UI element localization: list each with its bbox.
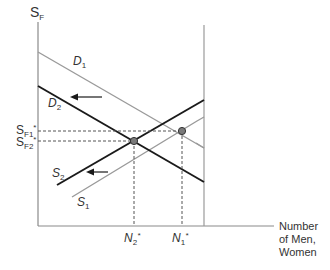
demand-curve-d1-kink <box>196 143 204 148</box>
y-tick-sf1-star: * <box>33 123 36 132</box>
x-tick-n2: N2* <box>124 232 140 247</box>
curve-label-d2-main: D <box>48 96 57 110</box>
y-axis-label-sub: F <box>39 13 44 22</box>
y-tick-sf2-main: S <box>16 135 24 149</box>
x-tick-n2-main: N <box>124 231 133 245</box>
supply-shift-arrow-icon <box>86 169 108 176</box>
curve-label-d1-main: D <box>73 54 82 68</box>
equilibrium-point-e2 <box>130 137 137 144</box>
x-axis-label-line-1: Number <box>279 220 318 233</box>
demand-shift-arrow-icon <box>70 94 102 101</box>
x-axis-label-line-2: of Men, <box>279 233 318 246</box>
x-tick-n1: N1* <box>172 232 188 247</box>
y-tick-sf2-star: * <box>33 135 36 144</box>
curve-label-d2-sub: 2 <box>57 103 61 112</box>
x-axis-label-line-3: Women <box>279 246 318 259</box>
equilibrium-point-e1 <box>178 127 185 134</box>
x-tick-n1-main: N <box>172 231 181 245</box>
curve-label-d1: D1 <box>73 55 86 70</box>
curve-label-s2-sub: 2 <box>60 173 64 182</box>
x-axis-label: Number of Men, Women <box>279 220 318 259</box>
curve-label-s1-main: S <box>77 195 85 209</box>
curve-label-d1-sub: 1 <box>82 61 86 70</box>
curve-label-s2: S2 <box>52 167 64 182</box>
x-tick-n1-star: * <box>185 231 188 240</box>
curve-label-s1: S1 <box>77 196 89 211</box>
y-tick-sf2-sub: F2 <box>24 142 33 151</box>
y-axis-label: SF <box>30 5 44 22</box>
supply-demand-diagram: SF D1 D2 S2 S1 SF1* SF2* N2* N1* Number … <box>0 0 330 270</box>
x-tick-n2-star: * <box>137 231 140 240</box>
y-axis-label-main: S <box>30 4 39 20</box>
curve-label-s2-main: S <box>52 166 60 180</box>
curve-label-s1-sub: 1 <box>85 202 89 211</box>
curve-label-d2: D2 <box>48 97 61 112</box>
y-tick-sf2: SF2* <box>16 136 36 151</box>
